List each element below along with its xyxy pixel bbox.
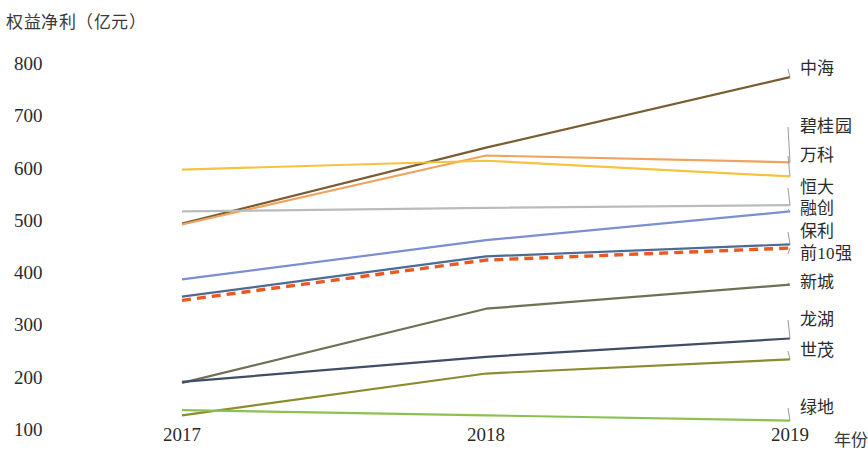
x-axis-tick-label: 2017 (163, 424, 201, 446)
legend-label-中海: 中海 (800, 60, 835, 77)
series-line-3 (182, 205, 790, 211)
series-line-2 (182, 161, 790, 177)
legend-label-碧桂园: 碧桂园 (800, 118, 852, 135)
legend-leader-6 (788, 248, 790, 254)
legend-label-万科: 万科 (800, 147, 835, 164)
legend-label-绿地: 绿地 (800, 399, 835, 416)
series-line-0 (182, 77, 790, 223)
legend-label-保利: 保利 (800, 223, 835, 240)
legend-label-融创: 融创 (800, 200, 835, 217)
legend-leader-0 (788, 69, 790, 77)
legend-leader-8 (788, 320, 790, 339)
legend-leader-10 (788, 408, 790, 421)
x-axis-title: 年份 (834, 426, 868, 451)
legend-label-前10强: 前10强 (800, 245, 852, 262)
legend-label-世茂: 世茂 (800, 342, 835, 359)
legend-leader-9 (788, 351, 790, 359)
legend-label-新城: 新城 (800, 274, 835, 291)
legend-label-龙湖: 龙湖 (800, 311, 835, 328)
legend-leader-5 (788, 232, 790, 244)
legend-label-恒大: 恒大 (800, 179, 835, 196)
x-axis-tick-label: 2019 (771, 424, 809, 446)
series-line-9 (182, 359, 790, 415)
series-line-10 (182, 410, 790, 420)
legend-leader-3 (788, 188, 790, 205)
series-line-7 (182, 285, 790, 383)
series-line-4 (182, 211, 790, 279)
x-axis-tick-label: 2018 (467, 424, 505, 446)
